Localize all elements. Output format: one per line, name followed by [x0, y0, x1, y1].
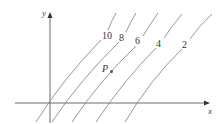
level-label-4: 4: [156, 39, 161, 49]
contour-diagram: [0, 0, 224, 124]
level-curve-6: [72, 13, 158, 122]
level-label-10: 10: [102, 31, 112, 41]
x-axis-arrow-icon: [204, 101, 210, 106]
x-axis-label: x: [208, 107, 212, 116]
point-p-marker: [110, 70, 113, 73]
y-axis-arrow-icon: [48, 12, 53, 18]
y-axis-label: y: [42, 9, 46, 18]
level-label-2: 2: [182, 40, 187, 50]
level-label-6: 6: [135, 36, 140, 46]
point-p-label: P: [102, 64, 108, 74]
level-label-8: 8: [119, 33, 124, 43]
level-curve-2: [125, 14, 212, 122]
level-curve-8: [52, 13, 136, 122]
